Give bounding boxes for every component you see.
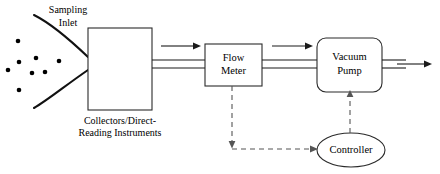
signal-flowmeter-corner-arrowhead	[229, 141, 236, 149]
sampling-inlet-label-line1: Sampling	[49, 4, 87, 15]
particle-dot	[6, 68, 11, 73]
sampling-inlet-label-line2: Inlet	[59, 17, 78, 28]
particle-dot	[57, 59, 62, 64]
flow-arrow-1-head	[193, 43, 201, 50]
flow-meter-label-line2: Meter	[221, 65, 247, 76]
particle-dot	[16, 39, 21, 44]
collectors-label-line2: Reading Instruments	[78, 127, 161, 138]
controller-label: Controller	[329, 144, 373, 155]
particle-dot	[17, 88, 22, 93]
air-sampling-train-diagram: Sampling Inlet Collectors/Direct- Readin…	[0, 0, 440, 174]
vacuum-pump-label-line2: Pump	[337, 65, 362, 76]
sampling-inlet-lower-horn	[34, 70, 88, 108]
particle-cloud	[6, 39, 62, 93]
diagram-canvas: Sampling Inlet Collectors/Direct- Readin…	[0, 0, 440, 174]
collectors-label-line1: Collectors/Direct-	[84, 115, 156, 126]
particle-dot	[17, 60, 22, 65]
particle-dot	[30, 71, 35, 76]
collectors-box[interactable]	[88, 28, 152, 110]
particle-dot	[34, 56, 39, 61]
flow-meter-label-line1: Flow	[223, 52, 245, 63]
particle-dot	[43, 70, 48, 75]
exhaust-arrow-head	[424, 61, 432, 68]
vacuum-pump-label-line1: Vacuum	[332, 51, 366, 62]
flow-arrow-2-head	[305, 43, 313, 50]
